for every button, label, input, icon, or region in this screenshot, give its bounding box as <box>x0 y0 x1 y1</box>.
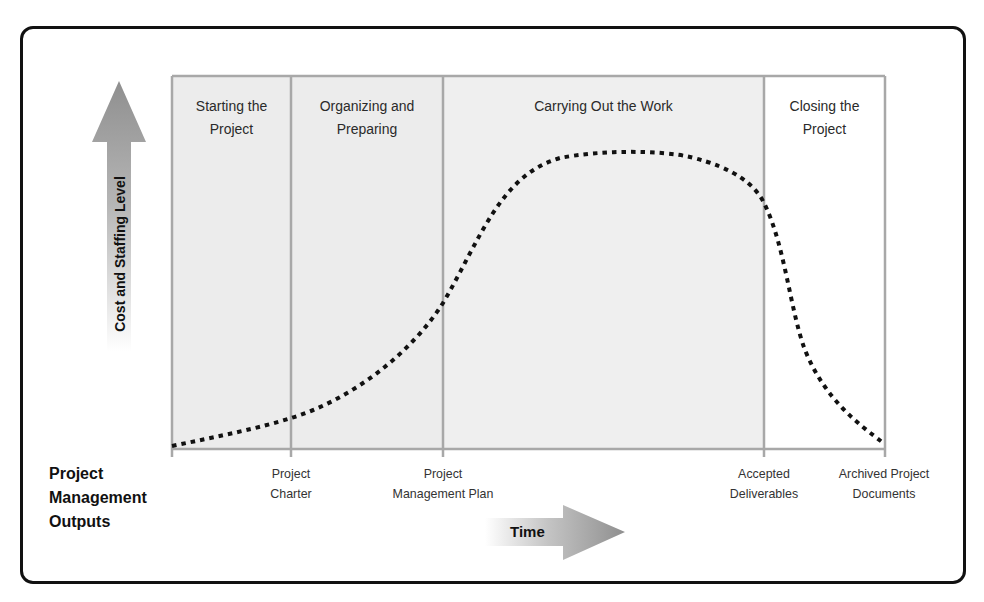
output-archived-project-documents: Archived Project Documents <box>824 464 944 504</box>
phase-title-organizing: Organizing and Preparing <box>299 94 436 140</box>
phase-title-closing: Closing the Project <box>770 94 879 140</box>
phase-title-starting: Starting the Project <box>178 94 285 140</box>
phase-title-carrying-out: Carrying Out the Work <box>459 94 748 117</box>
time-label: Time <box>510 523 545 540</box>
time-right-arrow-icon <box>485 505 625 560</box>
output-project-management-plan: Project Management Plan <box>379 464 508 504</box>
life-cycle-diagram <box>0 0 984 602</box>
output-project-charter: Project Charter <box>236 464 346 504</box>
output-accepted-deliverables: Accepted Deliverables <box>713 464 814 504</box>
y-axis-label: Cost and Staffing Level <box>112 154 128 354</box>
outputs-heading: Project Management Outputs <box>49 462 147 534</box>
phase-bg-carrying-out <box>443 76 764 449</box>
